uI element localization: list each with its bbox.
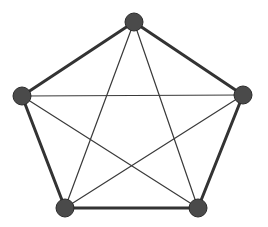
graph-vertex-left (13, 87, 31, 105)
graph-vertex-bottom-right (189, 199, 207, 217)
figure-background (0, 0, 268, 227)
graph-vertex-bottom-left (56, 199, 74, 217)
complete-graph-k5-svg (0, 0, 268, 227)
graph-vertex-right (234, 86, 252, 104)
graph-figure (0, 0, 268, 227)
graph-vertex-top (125, 13, 143, 31)
